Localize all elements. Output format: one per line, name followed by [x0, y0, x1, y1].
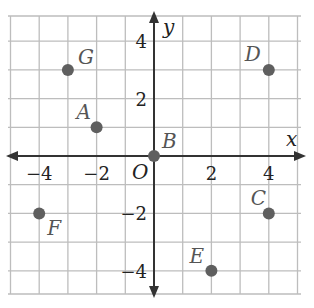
point-g: G: [62, 45, 94, 76]
y-tick-label: −4: [120, 261, 147, 282]
x-axis-arrow-right-icon: [294, 151, 306, 161]
point-marker-icon: [91, 121, 103, 133]
point-label: D: [244, 42, 261, 66]
point-label: B: [161, 129, 177, 153]
x-tick-label: −2: [83, 163, 110, 184]
x-tick-label: −4: [26, 163, 53, 184]
point-a: A: [75, 100, 103, 133]
point-label: C: [251, 186, 266, 210]
point-label: E: [188, 244, 204, 268]
point-label: F: [46, 216, 62, 240]
point-label: G: [78, 45, 94, 69]
point-marker-icon: [62, 64, 74, 76]
y-axis-arrow-up-icon: [149, 11, 159, 23]
y-tick-label: 2: [136, 89, 147, 110]
point-marker-icon: [205, 265, 217, 277]
point-label: A: [75, 100, 91, 124]
point-marker-icon: [263, 64, 275, 76]
y-axis-arrow-down-icon: [149, 286, 159, 298]
y-tick-label: 4: [136, 31, 147, 52]
origin-label: O: [132, 160, 148, 184]
point-b: B: [148, 129, 177, 162]
x-tick-label: 2: [206, 163, 217, 184]
point-e: E: [188, 244, 217, 277]
x-tick-label: 4: [263, 163, 274, 184]
point-d: D: [244, 42, 275, 76]
point-marker-icon: [148, 150, 160, 162]
coordinate-plane: x y O −4−22442−2−4 ABCDEFG: [0, 0, 314, 308]
y-tick-label: −2: [120, 203, 147, 224]
point-c: C: [251, 186, 275, 219]
point-f: F: [33, 207, 62, 240]
y-axis-label: y: [162, 15, 175, 39]
x-axis-arrow-left-icon: [6, 151, 18, 161]
point-marker-icon: [33, 207, 45, 219]
x-axis-label: x: [286, 127, 297, 151]
